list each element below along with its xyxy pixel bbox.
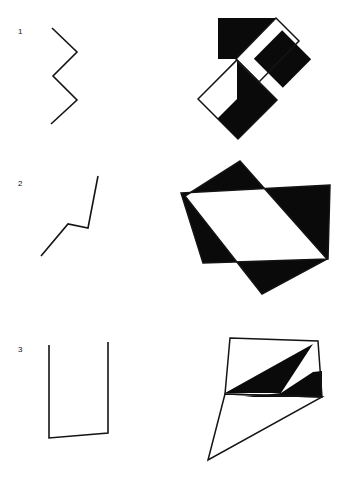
row3-pattern-group xyxy=(208,338,322,460)
row2-pattern-group xyxy=(181,161,330,294)
row-2-group xyxy=(41,161,330,294)
row-1-group xyxy=(51,18,311,139)
figures-canvas xyxy=(0,0,351,484)
row3-spike-triangle xyxy=(208,394,322,460)
row1-pattern-group xyxy=(198,18,311,139)
row3-n-line xyxy=(49,342,108,438)
row-3-group xyxy=(49,338,322,460)
row1-zigzag-line xyxy=(51,28,77,124)
worksheet-sheet: 1 2 3 xyxy=(0,0,351,484)
row2-bent-line xyxy=(41,176,98,256)
